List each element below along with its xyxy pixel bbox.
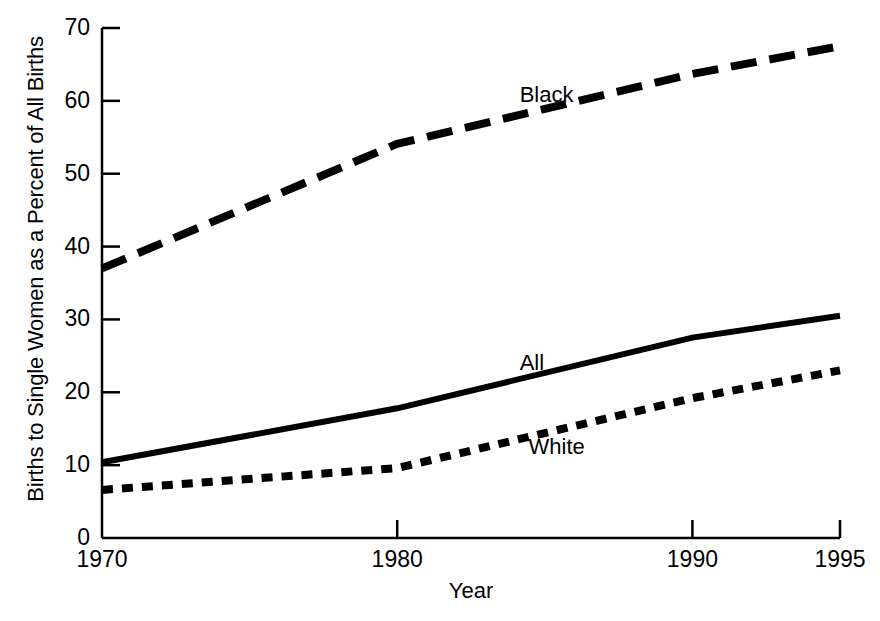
y-tick-label: 10 — [40, 453, 90, 476]
series-label-white: White — [529, 436, 585, 458]
data-series-group — [102, 46, 840, 490]
y-tick-label: 20 — [40, 380, 90, 403]
series-line-all — [102, 316, 840, 462]
x-tick-label: 1980 — [352, 548, 442, 571]
series-label-black: Black — [520, 84, 574, 106]
y-tick-label: 30 — [40, 307, 90, 330]
x-tick-label: 1970 — [57, 548, 147, 571]
chart-figure: Births to Single Women as a Percent of A… — [0, 0, 880, 621]
x-tick-label: 1990 — [647, 548, 737, 571]
series-label-all: All — [520, 352, 544, 374]
y-tick-label: 50 — [40, 162, 90, 185]
series-line-black — [102, 46, 840, 268]
x-tick-label: 1995 — [795, 548, 880, 571]
axis-lines — [102, 28, 840, 538]
y-tick-label: 40 — [40, 235, 90, 258]
x-axis-label: Year — [102, 578, 840, 604]
chart-plot-area — [0, 0, 880, 621]
y-tick-label: 60 — [40, 89, 90, 112]
y-tick-label: 70 — [40, 16, 90, 39]
